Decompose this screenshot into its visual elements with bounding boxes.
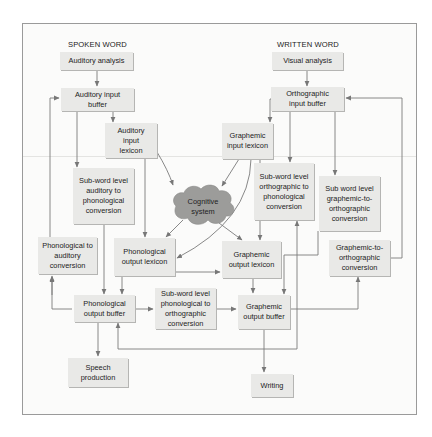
graphemic-output-lexicon-label: Graphemic output lexicon [228,250,275,270]
visual-analysis-label: Visual analysis [283,56,332,66]
graphemic-to-orthographic-label: Graphemic-to-orthographic conversion [333,243,386,273]
phonological-to-auditory-box: Phonological to auditory conversion [38,237,97,274]
auditory-analysis-label: Auditory analysis [69,56,125,66]
writing-box: Writing [251,374,293,397]
phonological-output-lexicon-label: Phonological output lexicon [120,247,169,267]
orthographic-input-buffer-box: Orthographic input buffer [271,87,344,111]
graphemic-to-orthographic-box: Graphemic-to-orthographic conversion [329,240,390,276]
speech-production-box: Speech production [68,358,128,387]
phonological-output-lexicon-box: Phonological output lexicon [114,238,175,276]
writing-label: Writing [261,381,284,391]
graphemic-input-lexicon-label: Graphemic input lexicon [226,131,269,151]
subword-orthographic-to-phonological-label: Sub-word level orthographic to phonologi… [256,172,312,212]
speech-production-label: Speech production [76,363,120,383]
subword-auditory-to-phonological-label: Sub-word level auditory to phonological … [77,176,130,216]
subword-graphemic-to-orthographic-label: Sub word level graphemic-to-orthographic… [322,184,377,224]
graphemic-input-lexicon-box: Graphemic input lexicon [222,123,273,159]
phonological-to-auditory-label: Phonological to auditory conversion [40,241,95,271]
auditory-input-buffer-label: Auditory input buffer [73,90,122,110]
subword-auditory-to-phonological-box: Sub-word level auditory to phonological … [73,168,134,224]
auditory-input-lexicon-label: Auditory input lexicon [115,126,147,156]
auditory-analysis-box: Auditory analysis [60,52,133,70]
cognitive-system-label: Cognitive system [180,197,226,217]
graphemic-output-lexicon-box: Graphemic output lexicon [222,241,281,278]
auditory-input-buffer-box: Auditory input buffer [61,88,134,111]
graphemic-output-buffer-box: Graphemic output buffer [238,295,290,329]
visual-analysis-box: Visual analysis [272,52,343,70]
subword-phonological-to-orthographic-box: Sub-word level phonological to orthograp… [155,288,216,329]
subword-phonological-to-orthographic-label: Sub-word level phonological to orthograp… [157,289,214,329]
auditory-input-lexicon-box: Auditory input lexicon [105,123,157,158]
orthographic-input-buffer-label: Orthographic input buffer [279,89,336,109]
phonological-output-buffer-label: Phonological output buffer [78,299,131,319]
subword-graphemic-to-orthographic-box: Sub word level graphemic-to-orthographic… [319,176,380,231]
spoken-word-heading: SPOKEN WORD [68,40,127,49]
subword-orthographic-to-phonological-box: Sub-word level orthographic to phonologi… [254,163,314,220]
written-word-heading: WRITTEN WORD [277,40,339,49]
graphemic-output-buffer-label: Graphemic output buffer [242,302,286,322]
phonological-output-buffer-box: Phonological output buffer [74,295,135,322]
